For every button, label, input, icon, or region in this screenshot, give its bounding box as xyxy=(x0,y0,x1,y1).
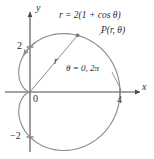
theta-leader-line xyxy=(112,72,121,90)
point-p-label: P(r, θ) xyxy=(101,26,125,36)
y-tick-label-neg2: −2 xyxy=(10,131,21,141)
point-p-marker xyxy=(76,33,80,37)
y-tick-label-2: 2 xyxy=(17,41,22,51)
y-axis-label: y xyxy=(36,3,40,13)
curve-direction-arrow xyxy=(24,43,36,56)
x-axis-label: x xyxy=(142,82,146,92)
radius-label: r xyxy=(54,57,58,67)
figure-canvas xyxy=(0,0,154,159)
polar-cardioid-figure: y x 2 −2 4 0 r = 2(1 + cos θ) P(r, θ) r … xyxy=(0,0,154,159)
theta-label: θ = 0, 2π xyxy=(66,64,99,73)
x-tick-label-4: 4 xyxy=(117,95,122,105)
origin-label: 0 xyxy=(33,94,38,104)
curve-equation-label: r = 2(1 + cos θ) xyxy=(59,11,121,21)
